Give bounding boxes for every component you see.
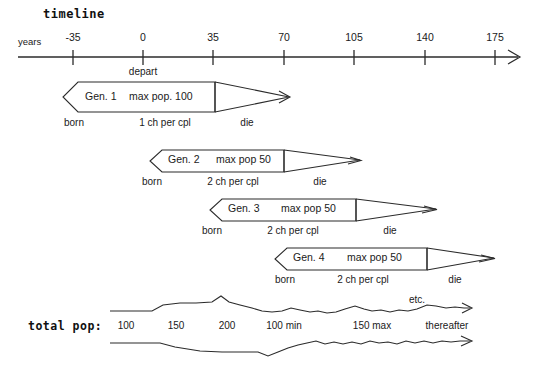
generation-4-children-label: 2 ch per cpl [337, 274, 389, 285]
generation-2-children-label: 2 ch per cpl [207, 176, 259, 187]
axis-ticks [73, 50, 495, 65]
axis-tick-label-105: 105 [345, 32, 363, 43]
generation-2-death-taper [284, 150, 360, 172]
generation-4-born-label: born [275, 274, 295, 285]
axis-tick-label-0: 0 [140, 32, 146, 43]
page-title: timeline [43, 7, 105, 21]
total-pop-marker-200: 200 [219, 320, 236, 331]
total-pop-marker-150: 150 [168, 320, 185, 331]
total-pop-lower-arrowhead [461, 336, 472, 346]
total-pop-marker-thereafter: thereafter [426, 320, 469, 331]
generation-4-death-taper [427, 248, 494, 270]
generation-3-die-label: die [383, 225, 396, 236]
generation-3-max-pop: max pop 50 [281, 203, 336, 214]
generation-3-death-taper [356, 199, 436, 221]
axis-tick-label--35: -35 [65, 32, 80, 43]
total-pop-lower-curve [110, 336, 472, 356]
generation-4-death-arrowhead [479, 255, 495, 262]
generation-2-max-pop: max pop 50 [216, 154, 271, 165]
generation-1-children-label: 1 ch per cpl [139, 117, 191, 128]
generation-4-die-label: die [448, 274, 461, 285]
generation-2-name: Gen. 2 [168, 154, 200, 165]
timeline-diagram: timeline years -35 0 35 70 105 140 175 d… [0, 0, 535, 370]
diagram-vector-layer [0, 0, 535, 370]
axis-tick-label-175: 175 [486, 32, 504, 43]
total-pop-label: total pop: [28, 319, 102, 333]
depart-label: depart [129, 66, 157, 77]
axis-tick-label-70: 70 [278, 32, 290, 43]
axis-caption: years [18, 36, 41, 47]
generation-1-born-label: born [64, 117, 84, 128]
generation-3-death-arrowhead [422, 206, 437, 213]
generation-2-born-label: born [142, 176, 162, 187]
total-pop-lower-polyline [110, 341, 470, 356]
generation-1-die-label: die [240, 117, 253, 128]
generation-1-death-taper [215, 82, 289, 112]
generation-3-name: Gen. 3 [228, 203, 260, 214]
axis-tick-label-140: 140 [416, 32, 434, 43]
generation-1-death-arrowhead [279, 91, 290, 103]
generation-4-max-pop: max pop 50 [347, 252, 402, 263]
total-pop-marker-150-max: 150 max [353, 320, 391, 331]
generation-4-name: Gen. 4 [293, 252, 325, 263]
total-pop-marker-100: 100 [118, 320, 135, 331]
generation-2-death-arrowhead [348, 157, 361, 164]
generation-1-max-pop: max pop. 100 [129, 91, 193, 102]
axis-arrowhead [508, 50, 520, 64]
generation-3-born-label: born [202, 225, 222, 236]
total-pop-etc-label: etc. [409, 294, 425, 305]
total-pop-marker-100-min: 100 min [266, 320, 302, 331]
axis-tick-label-35: 35 [207, 32, 219, 43]
generation-2-die-label: die [313, 176, 326, 187]
time-axis [18, 50, 520, 65]
generation-1-name: Gen. 1 [85, 91, 117, 102]
generation-3-children-label: 2 ch per cpl [267, 225, 319, 236]
total-pop-upper-arrowhead [462, 303, 472, 313]
